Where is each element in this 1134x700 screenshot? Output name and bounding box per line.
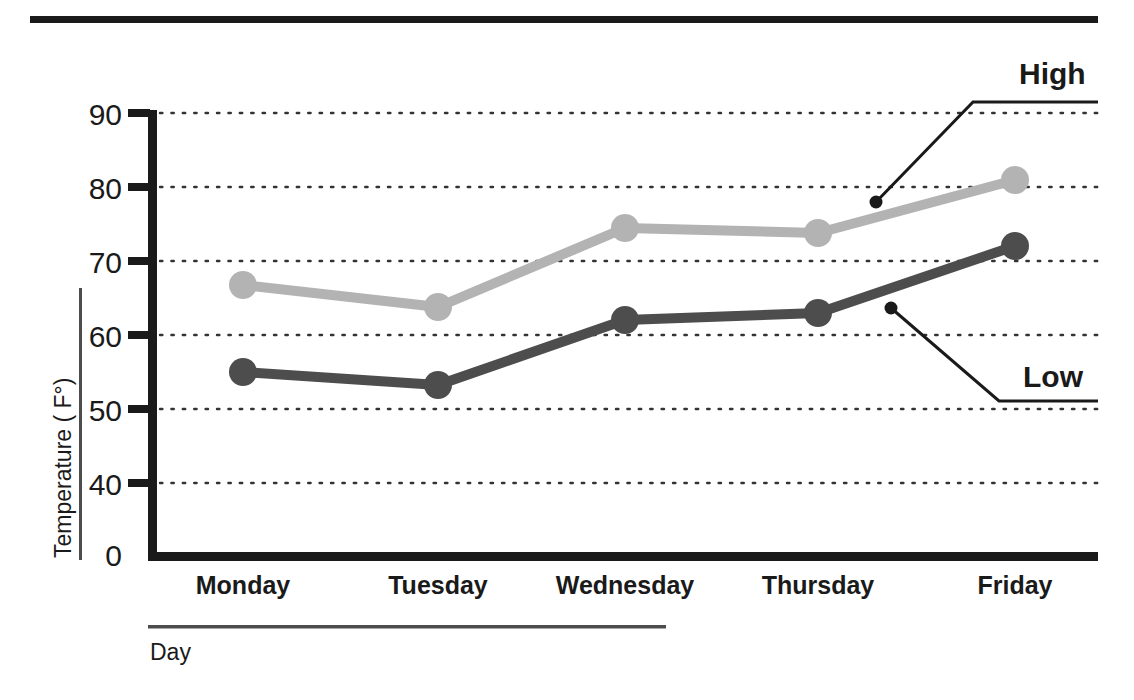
x-tick-label-wednesday: Wednesday	[520, 573, 730, 598]
data-point-low-friday	[1001, 232, 1029, 260]
y-tick-70	[128, 257, 150, 265]
y-tick-60	[128, 331, 150, 339]
data-point-high-monday	[229, 271, 257, 299]
data-point-low-thursday	[804, 299, 832, 327]
y-axis-title: Temperature ( F°)	[52, 378, 75, 558]
x-axis-title: Day	[150, 641, 191, 664]
series-label-low: Low	[1023, 362, 1083, 392]
y-tick-90	[128, 109, 150, 117]
y-tick-label-60: 60	[60, 322, 122, 352]
x-tick-label-friday: Friday	[935, 573, 1095, 598]
x-tick-label-thursday: Thursday	[733, 573, 903, 598]
series-label-high: High	[1019, 59, 1086, 89]
data-point-low-tuesday	[424, 371, 452, 399]
annotation-anchor-dot-high	[870, 196, 883, 209]
x-tick-label-monday: Monday	[163, 573, 323, 598]
data-point-high-friday	[1001, 166, 1029, 194]
series-markers-low	[229, 232, 1029, 399]
annotation-anchor-dot-low	[885, 302, 898, 315]
y-tick-label-90: 90	[60, 100, 122, 130]
x-axis-spine	[148, 552, 1098, 561]
y-tick-80	[128, 183, 150, 191]
data-point-low-wednesday	[611, 306, 639, 334]
gridlines	[160, 113, 1098, 483]
data-point-high-tuesday	[424, 293, 452, 321]
x-axis-title-rule	[148, 625, 666, 629]
y-tick-label-70: 70	[60, 248, 122, 278]
y-tick-marks	[128, 109, 150, 487]
y-tick-50	[128, 405, 150, 413]
data-point-low-monday	[229, 358, 257, 386]
top-divider-rule	[30, 16, 1098, 23]
data-point-high-wednesday	[611, 214, 639, 242]
x-tick-label-tuesday: Tuesday	[358, 573, 518, 598]
y-tick-40	[128, 479, 150, 487]
y-tick-label-80: 80	[60, 174, 122, 204]
chart-figure: 90 80 70 60 50 40 0 Temperature ( F°) Mo…	[0, 0, 1134, 700]
data-point-high-thursday	[804, 219, 832, 247]
